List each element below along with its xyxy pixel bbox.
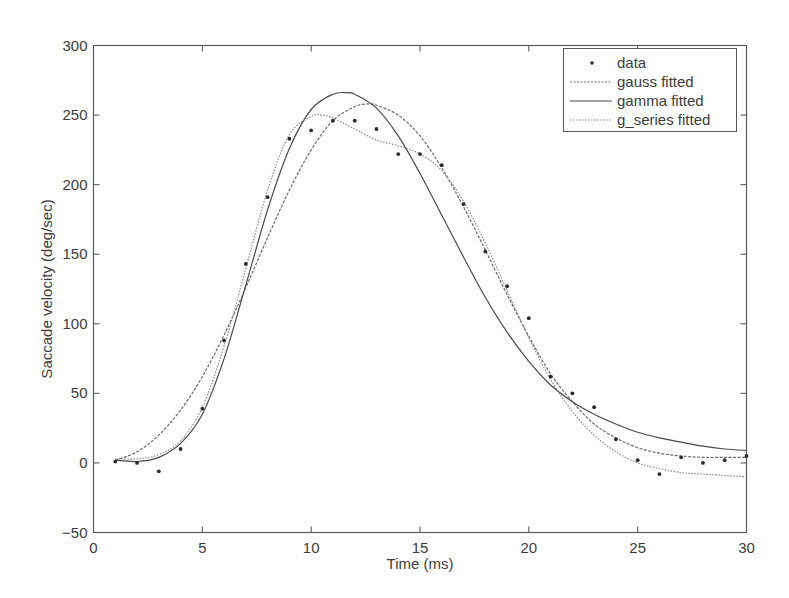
y-tick-label: 300 bbox=[62, 37, 87, 54]
legend-label-gseries: g_series fitted bbox=[617, 111, 710, 128]
legend-label-data: data bbox=[617, 54, 647, 71]
data-point bbox=[309, 128, 313, 132]
legend: data gauss fitted gamma fitted g_series … bbox=[564, 49, 737, 132]
x-tick-label: 0 bbox=[89, 539, 97, 556]
y-tick-label: 50 bbox=[71, 384, 88, 401]
data-point bbox=[679, 455, 683, 459]
data-point bbox=[527, 316, 531, 320]
curve-gamma-fitted bbox=[115, 92, 746, 461]
data-point bbox=[418, 152, 422, 156]
data-point bbox=[396, 152, 400, 156]
x-tick-label: 5 bbox=[198, 539, 206, 556]
data-point bbox=[614, 437, 618, 441]
data-point bbox=[701, 461, 705, 465]
data-point bbox=[745, 454, 749, 458]
data-point bbox=[135, 461, 139, 465]
data-point bbox=[483, 250, 487, 254]
legend-label-gamma: gamma fitted bbox=[617, 92, 704, 109]
y-tick-label: −50 bbox=[62, 524, 87, 541]
data-point bbox=[636, 458, 640, 462]
y-tick-label: 0 bbox=[79, 454, 87, 471]
data-point bbox=[266, 195, 270, 199]
legend-label-gauss: gauss fitted bbox=[617, 73, 694, 90]
curve-g-series-fitted bbox=[115, 114, 746, 476]
data-point bbox=[288, 137, 292, 141]
curve-gauss-fitted bbox=[115, 104, 746, 460]
data-point bbox=[244, 262, 248, 266]
y-tick-label: 250 bbox=[62, 106, 87, 123]
x-tick-label: 30 bbox=[738, 539, 755, 556]
data-point bbox=[570, 391, 574, 395]
y-axis-label: Saccade velocity (deg/sec) bbox=[38, 199, 55, 378]
data-point bbox=[723, 458, 727, 462]
data-point bbox=[658, 472, 662, 476]
data-point bbox=[592, 405, 596, 409]
x-tick-label: 15 bbox=[412, 539, 429, 556]
data-points bbox=[113, 119, 748, 476]
data-point bbox=[179, 447, 183, 451]
y-tick-label: 200 bbox=[62, 176, 87, 193]
x-tick-label: 20 bbox=[520, 539, 537, 556]
data-point bbox=[200, 407, 204, 411]
data-point bbox=[331, 119, 335, 123]
legend-marker-data-icon bbox=[590, 61, 594, 65]
data-point bbox=[375, 127, 379, 131]
data-point bbox=[462, 202, 466, 206]
data-point bbox=[353, 119, 357, 123]
data-point bbox=[222, 339, 226, 343]
data-point bbox=[113, 460, 117, 464]
data-point bbox=[440, 163, 444, 167]
data-point bbox=[505, 284, 509, 288]
x-axis-label: Time (ms) bbox=[387, 555, 454, 572]
x-tick-label: 10 bbox=[303, 539, 320, 556]
chart-figure: 051015202530 −50050100150200250300 Time … bbox=[0, 0, 789, 598]
fitted-curves bbox=[115, 92, 746, 476]
data-point bbox=[157, 469, 161, 473]
y-tick-label: 150 bbox=[62, 245, 87, 262]
data-point bbox=[549, 375, 553, 379]
x-tick-label: 25 bbox=[629, 539, 646, 556]
y-tick-label: 100 bbox=[62, 315, 87, 332]
